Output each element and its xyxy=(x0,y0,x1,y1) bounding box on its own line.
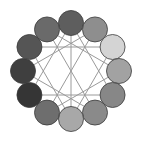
graph-node xyxy=(17,83,42,108)
graph-node xyxy=(100,35,125,60)
graph-node xyxy=(107,59,132,84)
graph-node xyxy=(59,11,84,36)
graph-node xyxy=(35,17,60,42)
graph-node xyxy=(11,59,36,84)
graph-node xyxy=(83,100,108,125)
circular-graph-diagram xyxy=(0,0,141,141)
graph-node xyxy=(59,107,84,132)
